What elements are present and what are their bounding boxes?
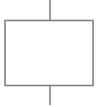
block-rectangle <box>5 21 93 86</box>
diagram-canvas <box>0 0 97 107</box>
